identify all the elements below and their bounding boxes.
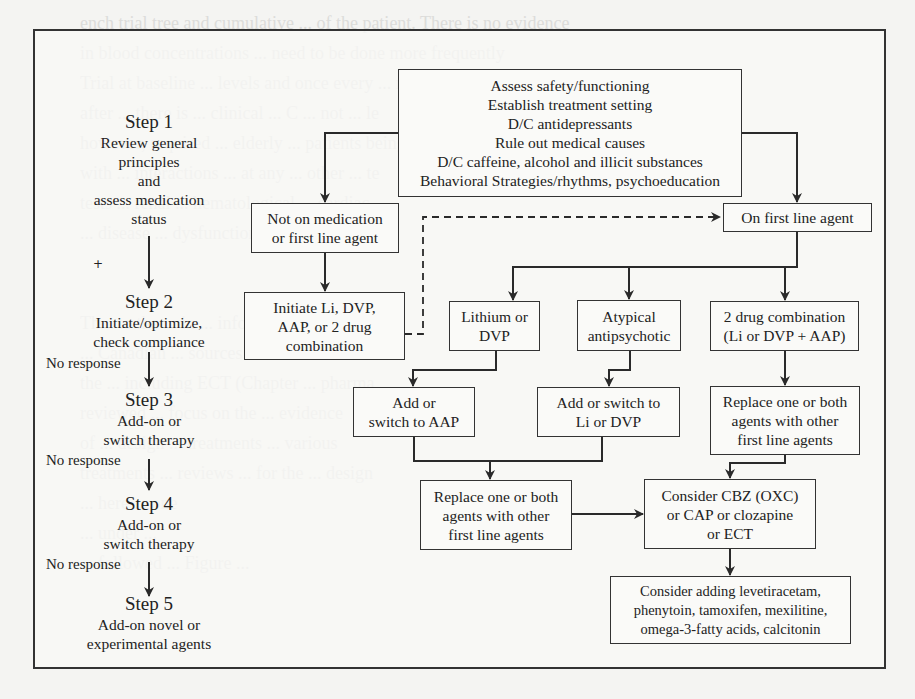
box-text: Add or switch to [557, 393, 661, 412]
initiate-box: Initiate Li, DVP, AAP, or 2 drug combina… [244, 292, 405, 360]
replace-agents-middle-box: Replace one or both agents with other fi… [420, 480, 572, 550]
box-text: or first line agent [272, 228, 378, 247]
box-text: (Li or DVP + AAP) [724, 326, 846, 345]
box-text: Consider CBZ (OXC) [662, 486, 799, 505]
box-text: omega-3-fatty acids, calcitonin [641, 620, 821, 639]
box-text: first line agents [448, 525, 544, 544]
box-text: 2 drug combination [724, 307, 845, 326]
no-response-label: No response [46, 452, 121, 469]
box-text: Behavioral Strategies/rhythms, psychoedu… [420, 171, 720, 190]
box-text: Li or DVP [576, 412, 641, 431]
step-text: status [59, 209, 239, 228]
step-1: Step 1 Review general principles and ass… [59, 110, 239, 228]
box-text: DVP [479, 326, 510, 345]
step-3: Step 3 Add-on or switch therapy [59, 388, 239, 449]
initial-assessment-box: Assess safety/functioning Establish trea… [398, 69, 742, 197]
consider-cbz-box: Consider CBZ (OXC) or CAP or clozapine o… [644, 479, 816, 549]
two-drug-combination-box: 2 drug combination (Li or DVP + AAP) [710, 301, 859, 351]
step-title: Step 5 [59, 592, 239, 615]
step-title: Step 2 [59, 290, 239, 313]
box-text: Establish treatment setting [488, 95, 652, 114]
box-text: first line agents [737, 430, 833, 449]
step-text: switch therapy [59, 534, 239, 553]
step-text: Add-on or [59, 515, 239, 534]
box-text: AAP, or 2 drug [278, 317, 372, 336]
step-text: experimental agents [59, 634, 239, 653]
plus-mark: + [93, 257, 103, 271]
step-title: Step 1 [59, 110, 239, 133]
step-2: Step 2 Initiate/optimize, check complian… [59, 290, 239, 351]
step-text: check compliance [59, 332, 239, 351]
box-text: Not on medication [267, 209, 382, 228]
step-text: switch therapy [59, 430, 239, 449]
replace-agents-right-box: Replace one or both agents with other fi… [710, 386, 860, 455]
box-text: or CAP or clozapine [667, 505, 793, 524]
no-response-label: No response [46, 556, 121, 573]
step-text: Initiate/optimize, [59, 313, 239, 332]
atypical-antipsychotic-box: Atypical antipsychotic [577, 300, 681, 351]
box-text: Lithium or [461, 307, 528, 326]
no-response-label: No response [46, 355, 121, 372]
step-text: principles [59, 152, 239, 171]
step-title: Step 3 [59, 388, 239, 411]
step-text: Add-on novel or [59, 615, 239, 634]
box-text: Consider adding levetiracetam, [640, 582, 821, 601]
box-text: switch to AAP [369, 412, 459, 431]
on-first-line-agent-box: On first line agent [723, 203, 872, 232]
box-text: Replace one or both [723, 392, 847, 411]
box-text: agents with other [443, 506, 550, 525]
step-text: assess medication [59, 190, 239, 209]
box-text: Atypical [602, 307, 655, 326]
box-text: combination [286, 336, 364, 355]
box-text: phenytoin, tamoxifen, mexilitine, [634, 601, 828, 620]
add-or-switch-to-aap-box: Add or switch to AAP [353, 387, 475, 437]
step-title: Step 4 [59, 492, 239, 515]
box-text: agents with other [732, 411, 839, 430]
box-text: D/C antidepressants [508, 114, 632, 133]
step-text: and [59, 171, 239, 190]
box-text: antipsychotic [588, 326, 671, 345]
box-text: Replace one or both [434, 487, 558, 506]
lithium-or-dvp-box: Lithium or DVP [449, 301, 540, 351]
box-text: D/C caffeine, alcohol and illicit substa… [437, 152, 703, 171]
step-4: Step 4 Add-on or switch therapy [59, 492, 239, 553]
step-5: Step 5 Add-on novel or experimental agen… [59, 592, 239, 653]
step-text: Add-on or [59, 411, 239, 430]
box-text: Assess safety/functioning [491, 76, 650, 95]
box-text: Rule out medical causes [495, 133, 645, 152]
add-or-switch-to-li-box: Add or switch to Li or DVP [537, 387, 680, 437]
box-text: Add or [392, 393, 435, 412]
box-text: On first line agent [741, 208, 853, 227]
step-text: Review general [59, 133, 239, 152]
box-text: Initiate Li, DVP, [273, 298, 375, 317]
box-text: or ECT [707, 524, 753, 543]
consider-adding-box: Consider adding levetiracetam, phenytoin… [610, 576, 851, 644]
not-on-medication-box: Not on medication or first line agent [251, 203, 399, 253]
